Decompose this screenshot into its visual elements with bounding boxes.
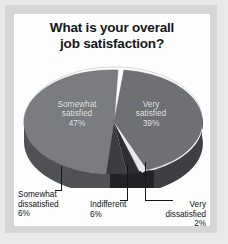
pie-graphic: Somewhat satisfied 47% Very satisfied 39… xyxy=(14,56,210,188)
chart-title-line-1: What is your overall xyxy=(14,20,210,36)
pie-label-somewhat-satisfied-value: 47% xyxy=(42,119,112,128)
callout-very-dissatisfied-value: 2% xyxy=(165,219,206,229)
callout-somewhat-dissatisfied: Somewhat dissatisfied 6% xyxy=(18,190,59,219)
chart-title: What is your overall job satisfaction? xyxy=(14,20,210,51)
pie-label-very-satisfied-value: 39% xyxy=(122,119,180,128)
pie-label-somewhat-satisfied: Somewhat satisfied 47% xyxy=(42,100,112,128)
pie-chart-figure: What is your overall job satisfaction? xyxy=(0,0,228,244)
callout-somewhat-dissatisfied-line-2: dissatisfied xyxy=(18,200,59,210)
callout-indifferent-value: 6% xyxy=(90,210,126,220)
callout-indifferent-line-1: Indifferent xyxy=(90,200,126,210)
leader-line-somewhat-dissatisfied-vertical xyxy=(61,166,62,190)
leader-line-indifferent-vertical xyxy=(127,166,128,200)
callout-somewhat-dissatisfied-line-1: Somewhat xyxy=(18,190,59,200)
callout-indifferent: Indifferent 6% xyxy=(90,200,126,219)
leader-line-very-dissatisfied-vertical xyxy=(145,162,146,200)
callout-very-dissatisfied-line-1: Very xyxy=(165,200,206,210)
chart-title-line-2: job satisfaction? xyxy=(14,36,210,52)
chart-plot-area: What is your overall job satisfaction? xyxy=(14,14,210,226)
callout-very-dissatisfied-line-2: dissatisfied xyxy=(165,210,206,220)
callout-somewhat-dissatisfied-value: 6% xyxy=(18,209,59,219)
pie-label-very-satisfied: Very satisfied 39% xyxy=(122,100,180,128)
callout-very-dissatisfied: Very dissatisfied 2% xyxy=(165,200,206,229)
